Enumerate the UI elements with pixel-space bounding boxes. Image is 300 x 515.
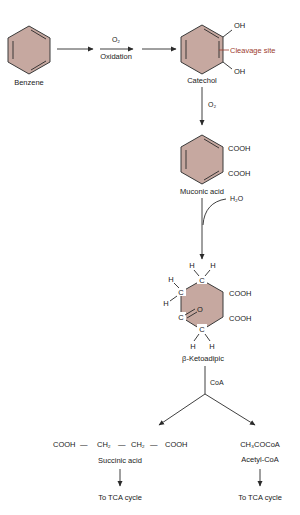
h2o-reagent-label: H₂O: [230, 195, 244, 202]
cleavage-site-label: Cleavage site: [230, 46, 275, 55]
acetyl-coa: CH₃COCoA Acetyl-CoA To TCA cycle: [238, 440, 282, 502]
muconic-acid-label: Muconic acid: [180, 187, 224, 196]
ketoadipic-cooh-top: COOH: [229, 289, 252, 298]
ketoadipic-cooh-bottom: COOH: [229, 314, 252, 323]
succinic-acid: COOH — CH₂ — CH₂ — COOH Succinic acid To…: [53, 440, 188, 502]
succinic-acid-label: Succinic acid: [98, 456, 142, 465]
acetyl-tca-label: To TCA cycle: [238, 493, 282, 502]
pathway-diagram: Benzene O₂ Oxidation OH OH Cleavage site…: [0, 0, 300, 515]
catechol-ring-icon: [181, 25, 223, 74]
succinic-ch2-1: CH₂: [97, 440, 111, 449]
acetyl-formula: CH₃COCoA: [240, 440, 280, 449]
coa-reagent-label: CoA: [210, 379, 224, 386]
atom-c-bottom: C: [199, 325, 205, 334]
h-bottom-left: H: [190, 342, 195, 351]
atom-o: O: [197, 305, 203, 314]
ketoadipic-label: β-Ketoadipic: [182, 354, 224, 363]
catechol-label: Catechol: [187, 76, 217, 85]
arrow-to-acetyl: [205, 394, 255, 425]
h-top-right: H: [210, 261, 215, 270]
succinic-dash-2: —: [118, 440, 126, 449]
h2o-input-curve: [203, 199, 226, 225]
h-left-lower: H: [163, 299, 168, 308]
benzene-ring-icon: [8, 26, 50, 74]
ketoadipic-molecule: C C C C O H H H H H H COOH COOH β-Ketoad…: [163, 261, 251, 363]
succinic-tca-label: To TCA cycle: [98, 493, 142, 502]
catechol-oh-bottom: OH: [234, 67, 245, 76]
muconic-cooh-bottom: COOH: [228, 169, 251, 178]
succinic-ch2-2: CH₂: [131, 440, 145, 449]
atom-c-left-bottom: C: [178, 313, 184, 322]
atom-c-left-top: C: [178, 288, 184, 297]
oxidation-label: Oxidation: [100, 52, 132, 61]
catechol-oh-top: OH: [234, 21, 245, 30]
h-top-left: H: [189, 261, 194, 270]
atom-c-top: C: [199, 276, 205, 285]
o2-reagent-label-2: O₂: [208, 101, 216, 108]
succinic-dash-3: —: [150, 440, 158, 449]
succinic-dash-1: —: [80, 440, 88, 449]
benzene-molecule: Benzene: [8, 26, 50, 87]
h-bottom-right: H: [209, 342, 214, 351]
succinic-cooh-left: COOH: [53, 440, 76, 449]
h-left-upper: H: [168, 275, 173, 284]
acetyl-coa-label: Acetyl-CoA: [241, 455, 279, 464]
arrow-to-succinic: [159, 394, 205, 425]
muconic-cooh-top: COOH: [228, 144, 251, 153]
succinic-cooh-right: COOH: [165, 440, 188, 449]
o2-reagent-label-1: O₂: [112, 36, 120, 43]
catechol-molecule: OH OH Cleavage site Catechol: [181, 21, 275, 85]
muconic-ring-icon: [181, 135, 223, 184]
muconic-acid-molecule: COOH COOH Muconic acid: [180, 135, 250, 196]
benzene-label: Benzene: [14, 78, 44, 87]
